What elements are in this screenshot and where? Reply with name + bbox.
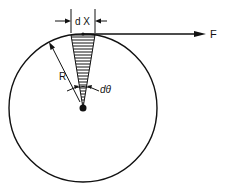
force-label: F	[210, 28, 217, 40]
center-point	[80, 105, 87, 112]
dx-arrowhead-right	[95, 19, 101, 24]
diagram-stage: F d X R dθ	[0, 0, 227, 192]
diagram-svg: F d X R dθ	[0, 0, 227, 192]
radius-arrowhead	[49, 42, 55, 50]
radius-label: R	[59, 71, 66, 82]
dx-arrowhead-left	[65, 19, 71, 24]
hatched-wedge	[71, 35, 95, 108]
dx-label: d X	[75, 16, 90, 27]
force-arrowhead	[194, 31, 206, 37]
dtheta-label: dθ	[100, 84, 112, 95]
